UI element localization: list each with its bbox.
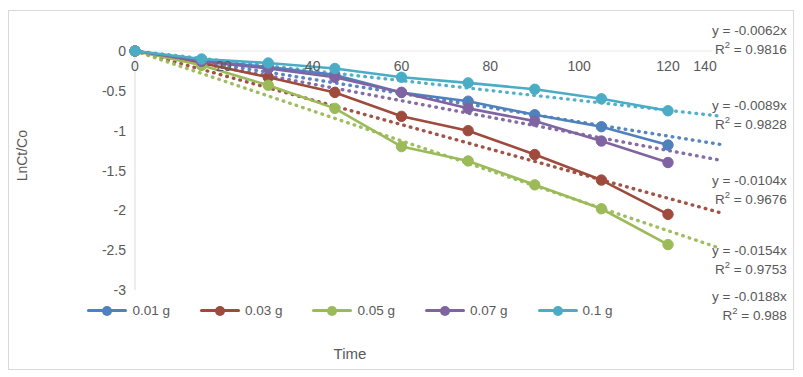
y-axis-tick-label: -0.5: [102, 83, 126, 99]
legend-label: 0.03 g: [245, 303, 283, 318]
r-squared-text: R2 = 0.9828: [712, 114, 787, 133]
legend-item[interactable]: 0.03 g: [200, 303, 283, 318]
r-squared-text: R2 = 0.9676: [712, 189, 787, 208]
y-axis-tick-label: -2.5: [102, 242, 126, 258]
chart-legend: 0.01 g0.03 g0.05 g0.07 g0.1 g: [0, 303, 700, 318]
trendline-equation-annotation: y = -0.0104xR2 = 0.9676: [712, 172, 787, 208]
chart-container: LnCt/Co 0-0.5-1-1.5-2-2.5-3 020406080100…: [0, 0, 803, 377]
x-axis-tick-label: 60: [394, 58, 410, 74]
legend-label: 0.1 g: [583, 303, 613, 318]
legend-marker-icon: [102, 306, 112, 316]
y-axis-tick-label: 0: [118, 43, 126, 59]
legend-marker-icon: [553, 306, 563, 316]
legend-swatch: [538, 309, 578, 312]
x-axis-tick-label: 100: [567, 58, 590, 74]
equation-text: y = -0.0188x: [712, 288, 787, 305]
legend-label: 0.07 g: [470, 303, 508, 318]
equation-text: y = -0.0062x: [712, 22, 787, 39]
trendline-equation-annotation: y = -0.0089xR2 = 0.9828: [712, 97, 787, 133]
legend-item[interactable]: 0.1 g: [538, 303, 613, 318]
r-squared-text: R2 = 0.988: [712, 305, 787, 324]
legend-marker-icon: [327, 306, 337, 316]
x-axis-tick-label: 80: [483, 58, 499, 74]
x-axis-title: Time: [0, 345, 700, 362]
r-squared-text: R2 = 0.9816: [712, 39, 787, 58]
x-axis-tick-label-140: 140: [693, 58, 716, 74]
legend-swatch: [87, 309, 127, 312]
equation-text: y = -0.0089x: [712, 97, 787, 114]
legend-label: 0.05 g: [357, 303, 395, 318]
y-axis-tick-label: -2: [114, 202, 126, 218]
legend-item[interactable]: 0.05 g: [312, 303, 395, 318]
equation-text: y = -0.0154x: [712, 242, 787, 259]
legend-swatch: [200, 309, 240, 312]
legend-marker-icon: [440, 306, 450, 316]
y-axis-tick-label: -3: [114, 282, 126, 298]
trendline-equation-annotation: y = -0.0062xR2 = 0.9816: [712, 22, 787, 58]
equation-text: y = -0.0104x: [712, 172, 787, 189]
r-squared-text: R2 = 0.9753: [712, 259, 787, 278]
legend-swatch: [312, 309, 352, 312]
y-axis-title: LnCt/Co: [14, 130, 38, 181]
legend-swatch: [425, 309, 465, 312]
y-axis-tick-label: -1: [114, 123, 126, 139]
legend-label: 0.01 g: [132, 303, 170, 318]
x-axis-tick-label: 0: [131, 58, 139, 74]
x-axis-tick-label: 120: [656, 58, 679, 74]
x-axis-tick-label: 20: [216, 58, 232, 74]
x-axis-tick-label: 40: [305, 58, 321, 74]
legend-item[interactable]: 0.01 g: [87, 303, 170, 318]
trendline-equation-annotation: y = -0.0188xR2 = 0.988: [712, 288, 787, 324]
trendline-equation-annotation: y = -0.0154xR2 = 0.9753: [712, 242, 787, 278]
y-axis-tick-label: -1.5: [102, 163, 126, 179]
legend-item[interactable]: 0.07 g: [425, 303, 508, 318]
legend-marker-icon: [215, 306, 225, 316]
